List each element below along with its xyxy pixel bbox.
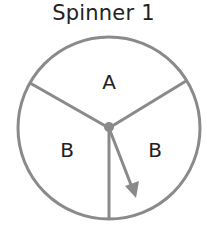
divider-right: [109, 81, 186, 128]
divider-left: [30, 83, 109, 128]
section-label-b-left: B: [60, 138, 74, 162]
spinner-pivot: [104, 122, 114, 132]
spinner-diagram: A B B: [0, 0, 207, 250]
section-label-a: A: [102, 70, 116, 94]
section-label-b-right: B: [148, 138, 162, 162]
spinner-arrow: [109, 128, 139, 198]
